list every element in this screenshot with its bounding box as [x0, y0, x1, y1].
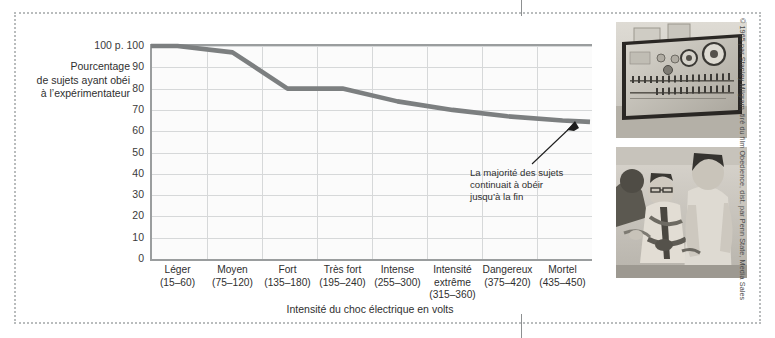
figure-root: Pourcentage de sujets ayant obéi à l’exp… — [0, 0, 775, 338]
gridline-vertical — [262, 46, 263, 259]
y-tick-label: 70 — [60, 103, 144, 115]
x-tick-label-range: (435–450) — [527, 277, 598, 290]
gridline-vertical — [482, 46, 483, 259]
photo-credit: © 1965 par Stanley Milgram, tiré du film… — [733, 18, 747, 268]
y-tick-label: 40 — [60, 167, 144, 179]
shock-generator-illustration — [616, 22, 747, 138]
y-tick-label: 90 — [60, 60, 144, 72]
learner-strapped-photo — [616, 147, 747, 278]
y-tick-label: 10 — [60, 231, 144, 243]
x-tick-label-name: Mortel — [527, 264, 598, 277]
y-tick-label: 30 — [60, 188, 144, 200]
gridline-vertical — [537, 46, 538, 259]
y-tick-label: 100 p. 100 — [60, 39, 144, 51]
crop-mark-top — [521, 0, 522, 16]
y-tick-label: 20 — [60, 209, 144, 221]
x-tick-label-range: (315–360) — [417, 289, 488, 302]
learner-illustration — [616, 147, 747, 278]
gridline-vertical — [207, 46, 208, 259]
plot-area — [150, 46, 592, 261]
y-tick-label: 80 — [60, 82, 144, 94]
x-tick-label: Mortel(435–450) — [527, 264, 598, 289]
chart-annotation-line-3: jusqu’à la fin — [470, 191, 588, 203]
x-axis-title: Intensité du choc électrique en volts — [150, 303, 590, 315]
chart-annotation: La majorité des sujets continuait à obéi… — [470, 167, 588, 204]
y-tick-label: 0 — [60, 252, 144, 264]
crop-mark-bottom — [521, 314, 522, 338]
gridline-vertical — [317, 46, 318, 259]
y-tick-label: 50 — [60, 146, 144, 158]
shock-generator-photo — [616, 22, 747, 138]
y-tick-label: 60 — [60, 124, 144, 136]
gridline-vertical — [427, 46, 428, 259]
chart-annotation-line-2: continuait à obéir — [470, 179, 588, 191]
gridline-vertical — [372, 46, 373, 259]
chart-annotation-line-1: La majorité des sujets — [470, 167, 588, 179]
